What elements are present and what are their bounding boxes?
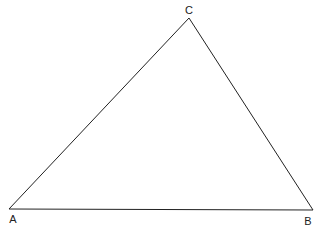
edge-ab (9, 209, 313, 210)
triangle-diagram: A B C (0, 0, 322, 233)
edge-ca (9, 18, 189, 209)
edge-bc (189, 18, 313, 210)
vertex-label-b: B (304, 215, 311, 227)
vertex-label-a: A (9, 213, 17, 225)
vertex-label-c: C (185, 4, 193, 16)
